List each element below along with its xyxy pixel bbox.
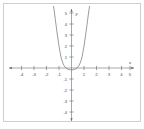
x-tick-label-2: 2 bbox=[95, 72, 98, 77]
y-tick-label-2: 2 bbox=[65, 44, 68, 49]
x-tick-label-3: 3 bbox=[108, 72, 111, 77]
y-tick-label-5: 5 bbox=[65, 11, 68, 16]
x-axis-label: x bbox=[128, 60, 132, 65]
y-tick-label-3: 3 bbox=[65, 33, 68, 38]
y-axis-label: y bbox=[74, 11, 78, 16]
x-tick-label-5: 5 bbox=[129, 72, 132, 77]
y-tick-label-1: 1 bbox=[65, 55, 68, 60]
y-axis-arrow-down-icon bbox=[70, 118, 72, 121]
y-tick-label--1: -1 bbox=[63, 77, 67, 82]
graph-canvas: -4 -3 -2 -1 1 2 3 4 5 5 4 3 2 1 -1 -2 -3… bbox=[0, 0, 144, 129]
y-tick-label--4: -4 bbox=[63, 110, 67, 115]
x-axis-arrow-icon bbox=[131, 67, 134, 69]
y-axis-arrow-icon bbox=[70, 9, 72, 12]
x-tick-label--3: -3 bbox=[32, 72, 36, 77]
x-tick-label-1: 1 bbox=[83, 72, 86, 77]
y-tick-label--3: -3 bbox=[63, 99, 67, 104]
x-tick-label--1: -1 bbox=[57, 72, 61, 77]
x-tick-label--4: -4 bbox=[20, 72, 24, 77]
x-tick-label--2: -2 bbox=[45, 72, 49, 77]
coordinate-plane-figure: -4 -3 -2 -1 1 2 3 4 5 5 4 3 2 1 -1 -2 -3… bbox=[0, 0, 144, 129]
x-tick-label-4: 4 bbox=[120, 72, 123, 77]
y-tick-label-4: 4 bbox=[65, 22, 68, 27]
y-tick-label--2: -2 bbox=[63, 88, 67, 93]
x-axis-arrow-left-icon bbox=[9, 67, 12, 69]
